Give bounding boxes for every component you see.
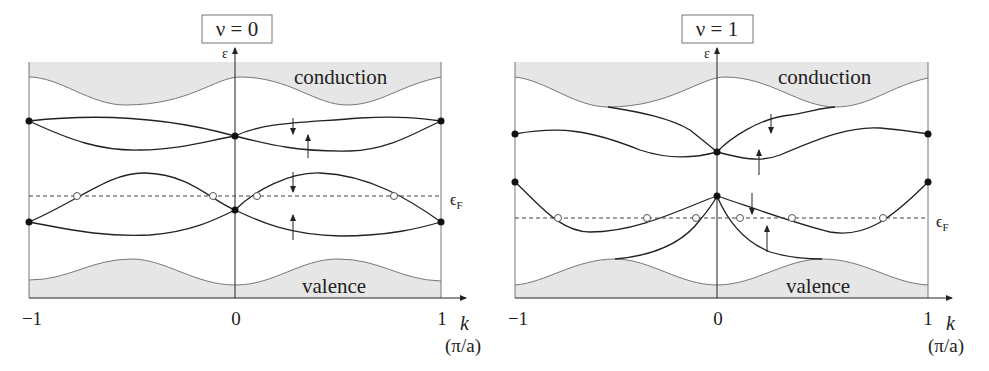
x-axis-label: k: [946, 312, 956, 334]
x-unit-label: (π/a): [928, 335, 964, 357]
band-line: [615, 196, 822, 259]
band-line: [515, 182, 928, 233]
panel-title: ν = 0: [216, 17, 258, 41]
valence-label: valence: [302, 274, 366, 298]
panel-nu0: ν = 0 ε conduction valence ϵF −1 0 1 k (…: [22, 15, 481, 357]
band-line: [515, 128, 928, 159]
panel-title: ν = 1: [696, 17, 738, 41]
y-axis-label: ε: [704, 46, 710, 61]
x-tick: 0: [713, 308, 723, 329]
x-tick: −1: [22, 308, 42, 329]
fermi-label: ϵF: [450, 191, 463, 211]
valence-band-region: [515, 259, 928, 298]
y-axis-label: ε: [222, 46, 228, 61]
x-tick: 1: [437, 308, 447, 329]
fermi-label: ϵF: [936, 213, 949, 233]
conduction-label: conduction: [778, 65, 872, 89]
x-unit-label: (π/a): [445, 335, 481, 357]
panel-nu1: ν = 1 ε conduction valence ϵF −1 0 1 k (…: [508, 15, 964, 357]
x-axis-label: k: [460, 312, 470, 334]
conduction-label: conduction: [294, 65, 388, 89]
valence-label: valence: [786, 274, 850, 298]
x-tick: −1: [508, 308, 528, 329]
x-tick: 0: [231, 308, 241, 329]
band-structure-diagram: ν = 0 ε conduction valence ϵF −1 0 1 k (…: [0, 0, 989, 371]
band-line: [608, 107, 835, 152]
x-tick: 1: [923, 308, 933, 329]
